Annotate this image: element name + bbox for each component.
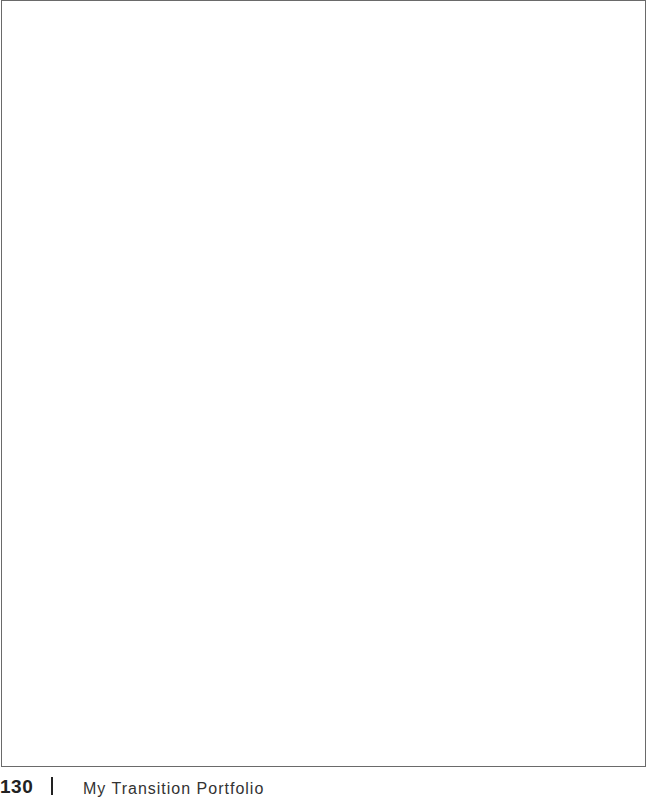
document-title: My Transition Portfolio	[83, 779, 264, 799]
page-footer: 130 My Transition Portfolio	[0, 776, 653, 800]
footer-divider	[51, 777, 53, 795]
blank-writing-box	[1, 0, 646, 767]
page-number: 130	[0, 776, 33, 798]
